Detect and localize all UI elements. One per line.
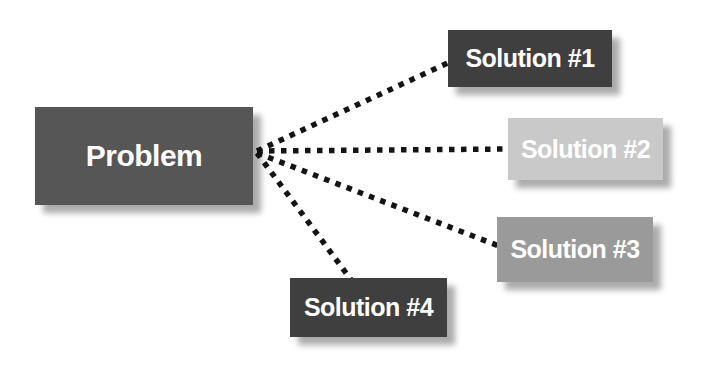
node-solution-2-label: Solution #2 (521, 135, 650, 164)
connector-problem-solution1 (257, 62, 450, 151)
connector-problem-solution2 (257, 149, 510, 151)
node-solution-4-label: Solution #4 (304, 293, 433, 322)
node-problem-label: Problem (86, 139, 203, 173)
node-solution-2: Solution #2 (508, 118, 663, 180)
node-solution-3-label: Solution #3 (510, 235, 639, 264)
node-problem: Problem (35, 107, 253, 205)
node-solution-3: Solution #3 (497, 217, 653, 282)
node-solution-4: Solution #4 (290, 278, 447, 337)
connector-problem-solution3 (257, 153, 499, 246)
diagram-canvas: Problem Solution #1 Solution #2 Solution… (0, 0, 706, 379)
node-solution-1-label: Solution #1 (465, 44, 594, 73)
node-solution-1: Solution #1 (448, 30, 612, 87)
